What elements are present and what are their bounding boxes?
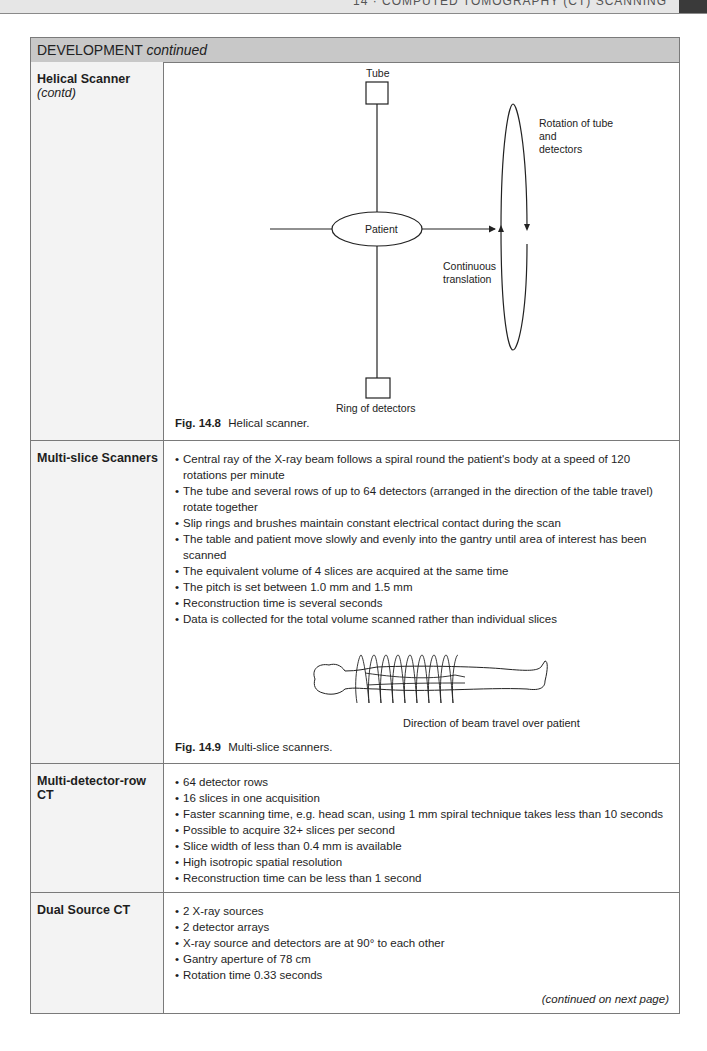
page-header: 14 · COMPUTED TOMOGRAPHY (CT) SCANNING bbox=[0, 0, 707, 14]
bullet-item: Faster scanning time, e.g. head scan, us… bbox=[175, 806, 669, 822]
continued-note: (continued on next page) bbox=[542, 993, 669, 1005]
row-dual-source-ct: Dual Source CT 2 X-ray sources 2 detecto… bbox=[31, 893, 679, 1013]
translation-label-1: Continuous bbox=[443, 260, 496, 273]
development-table: DEVELOPMENT continued Helical Scanner (c… bbox=[30, 37, 680, 1014]
rotation-label-3: detectors bbox=[539, 143, 582, 156]
bullet-item: 2 X-ray sources bbox=[175, 903, 669, 919]
bullet-item: Gantry aperture of 78 cm bbox=[175, 951, 669, 967]
beam-direction-caption: Direction of beam travel over patient bbox=[403, 717, 580, 730]
bullet-item: Data is collected for the total volume s… bbox=[175, 611, 669, 627]
patient-label: Patient bbox=[365, 223, 398, 236]
patient-spiral-illustration bbox=[305, 649, 565, 709]
row-content: 64 detector rows 16 slices in one acquis… bbox=[165, 764, 679, 892]
rotation-label-2: and bbox=[539, 130, 557, 143]
bullet-item: 64 detector rows bbox=[175, 774, 669, 790]
bullet-item: High isotropic spatial resolution bbox=[175, 854, 669, 870]
row-content: Tube Patient Rotation of tube and detect… bbox=[165, 62, 679, 440]
detectors-label: Ring of detectors bbox=[336, 402, 415, 415]
running-title: 14 · COMPUTED TOMOGRAPHY (CT) SCANNING bbox=[353, 0, 667, 8]
table-header-suffix: continued bbox=[146, 42, 207, 58]
row-label: Multi-slice Scanners bbox=[31, 441, 164, 763]
tube-label: Tube bbox=[366, 67, 390, 80]
figure-caption-text: Multi-slice scanners. bbox=[228, 741, 332, 753]
figure-caption: Fig. 14.9 Multi-slice scanners. bbox=[175, 741, 332, 753]
bullet-item: Possible to acquire 32+ slices per secon… bbox=[175, 822, 669, 838]
row-label: Multi-detector-row CT bbox=[31, 764, 164, 892]
row-multi-detector-row-ct: Multi-detector-row CT 64 detector rows 1… bbox=[31, 764, 679, 893]
bullet-list: 2 X-ray sources 2 detector arrays X-ray … bbox=[175, 903, 669, 983]
figure-caption-text: Helical scanner. bbox=[228, 417, 309, 429]
helical-diagram-svg bbox=[165, 62, 679, 422]
bullet-item: X-ray source and detectors are at 90° to… bbox=[175, 935, 669, 951]
rotation-label-1: Rotation of tube bbox=[539, 117, 613, 130]
bullet-item: Slip rings and brushes maintain constant… bbox=[175, 515, 669, 531]
row-helical-scanner: Helical Scanner (contd) bbox=[31, 62, 679, 441]
row-content: 2 X-ray sources 2 detector arrays X-ray … bbox=[165, 893, 679, 1013]
row-content: Central ray of the X-ray beam follows a … bbox=[165, 441, 679, 763]
bullet-item: The tube and several rows of up to 64 de… bbox=[175, 483, 669, 515]
bullet-item: Central ray of the X-ray beam follows a … bbox=[175, 451, 669, 483]
table-header: DEVELOPMENT continued bbox=[31, 38, 679, 63]
bullet-item: Rotation time 0.33 seconds bbox=[175, 967, 669, 983]
figure-number: Fig. 14.9 bbox=[175, 741, 221, 753]
bullet-item: Slice width of less than 0.4 mm is avail… bbox=[175, 838, 669, 854]
table-header-title: DEVELOPMENT bbox=[37, 42, 143, 58]
bullet-item: The table and patient move slowly and ev… bbox=[175, 531, 669, 563]
bullet-item: The pitch is set between 1.0 mm and 1.5 … bbox=[175, 579, 669, 595]
chapter-tab bbox=[679, 0, 707, 13]
row-label-suffix: (contd) bbox=[37, 86, 76, 100]
row-label: Helical Scanner (contd) bbox=[31, 62, 164, 440]
bullet-item: 2 detector arrays bbox=[175, 919, 669, 935]
bullet-list: Central ray of the X-ray beam follows a … bbox=[175, 451, 669, 627]
translation-label-2: translation bbox=[443, 273, 491, 286]
row-label-text: Helical Scanner bbox=[37, 72, 130, 86]
row-multi-slice-scanners: Multi-slice Scanners Central ray of the … bbox=[31, 441, 679, 764]
bullet-item: 16 slices in one acquisition bbox=[175, 790, 669, 806]
figure-number: Fig. 14.8 bbox=[175, 417, 221, 429]
bullet-list: 64 detector rows 16 slices in one acquis… bbox=[175, 774, 669, 886]
bullet-item: Reconstruction time can be less than 1 s… bbox=[175, 870, 669, 886]
figure-caption: Fig. 14.8 Helical scanner. bbox=[175, 417, 309, 429]
bullet-item: The equivalent volume of 4 slices are ac… bbox=[175, 563, 669, 579]
bullet-item: Reconstruction time is several seconds bbox=[175, 595, 669, 611]
row-label: Dual Source CT bbox=[31, 893, 164, 1013]
